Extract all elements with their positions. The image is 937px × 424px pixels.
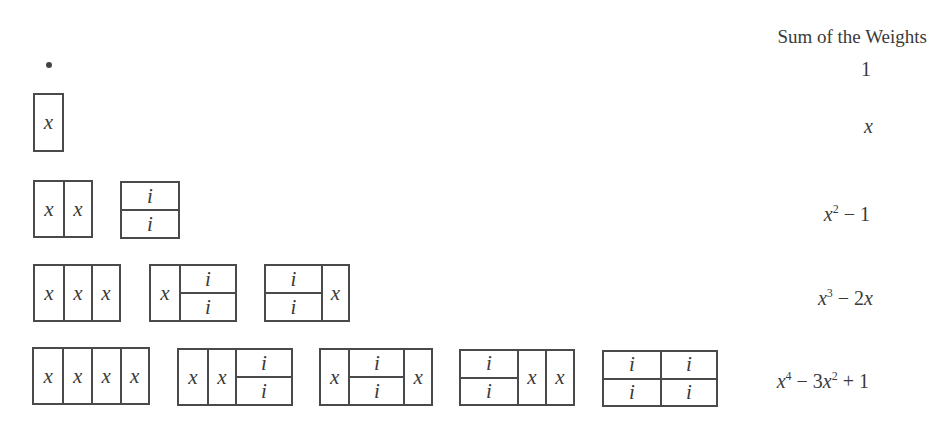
tiling-row2-a: x x — [33, 180, 93, 238]
weight-var: x — [818, 287, 827, 309]
domino-half: i — [266, 292, 321, 320]
square-cell: x — [321, 350, 348, 404]
weight-mid: − 3 — [792, 370, 823, 392]
tiling-row3-b: x i i — [149, 264, 237, 322]
weight-rest: − 1 — [839, 203, 870, 225]
square-cell: x — [63, 182, 91, 236]
tiling-row4-c: x i i x — [319, 348, 433, 406]
weight-row3: x3 − 2x — [818, 286, 873, 310]
domino-cell: i i — [266, 266, 321, 320]
tiling-row3-c: i i x — [264, 264, 350, 322]
square-cell: x — [62, 349, 91, 403]
square-cell: x — [91, 266, 119, 320]
domino-half: i — [604, 378, 660, 406]
domino-cell: i i — [179, 266, 235, 320]
domino-half: i — [122, 209, 178, 237]
tiling-row4-a: x x x x — [32, 347, 150, 405]
weight-var: x — [864, 287, 873, 309]
domino-cell: i i — [348, 350, 403, 404]
weight-row0: 1 — [861, 58, 871, 81]
weight-var: x — [823, 370, 832, 392]
tiling-row4-d: i i x x — [459, 349, 575, 406]
square-cell: x — [179, 350, 207, 404]
sum-of-weights-header: Sum of the Weights — [777, 26, 927, 48]
square-cell: x — [34, 349, 62, 403]
square-cell: x — [120, 349, 149, 403]
domino-half: i — [350, 376, 403, 404]
domino-half: i — [662, 378, 716, 406]
square-cell: x — [321, 266, 348, 320]
weight-row2: x2 − 1 — [824, 202, 870, 226]
weight-var: x — [824, 203, 833, 225]
square-cell: x — [35, 266, 63, 320]
square-cell: x — [35, 95, 62, 150]
weight-var: x — [777, 370, 786, 392]
square-cell: x — [151, 266, 179, 320]
domino-cell: i i — [235, 350, 291, 404]
square-cell: x — [545, 351, 573, 404]
domino-half: i — [662, 352, 716, 378]
empty-tiling-dot — [46, 62, 52, 68]
domino-half: i — [266, 266, 321, 292]
tiling-row4-e: i i i i — [602, 350, 718, 407]
domino-half: i — [181, 266, 235, 292]
domino-cell: i i — [604, 352, 660, 405]
domino-half: i — [181, 292, 235, 320]
weight-var: x — [864, 115, 873, 137]
weight-rest: + 1 — [838, 370, 869, 392]
domino-half: i — [461, 351, 517, 377]
weight-row1: x — [864, 115, 873, 138]
domino-cell: i i — [660, 352, 716, 405]
domino-half: i — [461, 377, 517, 405]
square-cell: x — [403, 350, 431, 404]
domino-half: i — [350, 350, 403, 376]
tiling-row2-b: i i — [120, 181, 180, 239]
domino-half: i — [237, 350, 291, 376]
domino-half: i — [122, 183, 178, 209]
weight-row4: x4 − 3x2 + 1 — [777, 369, 869, 393]
weight-rest: − 2 — [833, 287, 864, 309]
square-cell: x — [63, 266, 91, 320]
tiling-row4-b: x x i i — [177, 348, 293, 406]
tiling-row3-a: x x x — [33, 264, 121, 322]
square-cell: x — [207, 350, 235, 404]
tiling-row1-a: x — [33, 93, 64, 152]
square-cell: x — [35, 182, 63, 236]
square-cell: x — [91, 349, 120, 403]
domino-cell: i i — [122, 183, 178, 237]
domino-half: i — [604, 352, 660, 378]
domino-half: i — [237, 376, 291, 404]
square-cell: x — [517, 351, 545, 404]
domino-cell: i i — [461, 351, 517, 404]
